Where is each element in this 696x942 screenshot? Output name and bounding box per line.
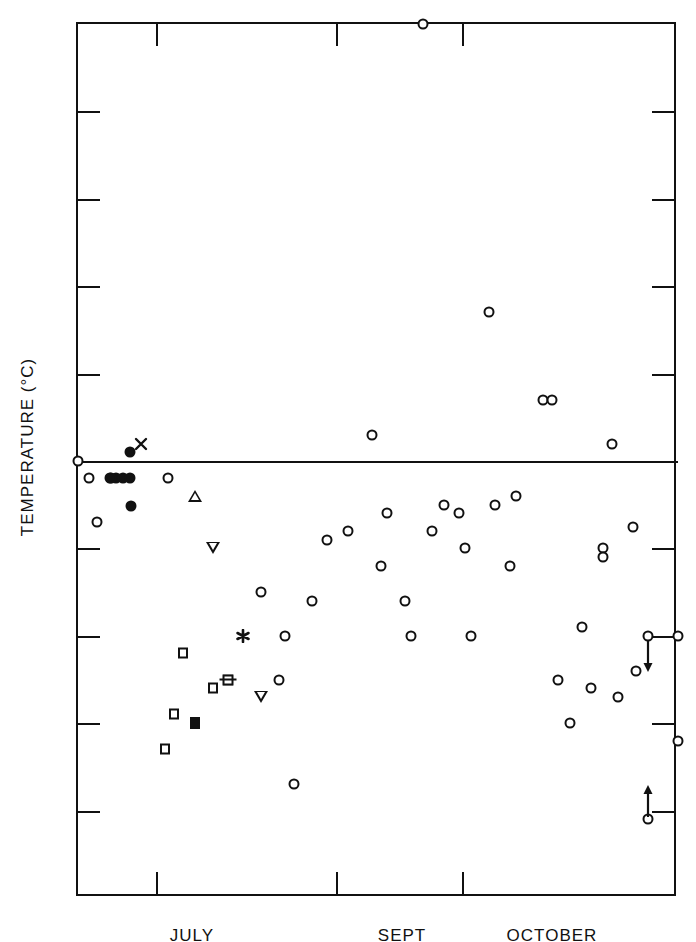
y-tick--2 xyxy=(78,636,100,638)
y-tick-right-3 xyxy=(652,199,674,201)
data-point-triangle-up xyxy=(188,490,202,502)
data-point-open-circle xyxy=(427,525,438,536)
figure-container: TEMPERATURE (°C) 543210−1−2−3−4−5 JULYSE… xyxy=(0,0,696,942)
data-point-open-circle xyxy=(490,499,501,510)
data-point-open-circle xyxy=(256,587,267,598)
data-point-open-circle xyxy=(400,595,411,606)
y-tick-2 xyxy=(78,286,100,288)
data-point-crossed-square xyxy=(223,674,234,685)
data-point-open-circle xyxy=(673,630,684,641)
data-point-filled-circle xyxy=(125,501,136,512)
x-tick-bottom-1 xyxy=(336,872,338,894)
y-tick-3 xyxy=(78,199,100,201)
data-point-open-circle xyxy=(343,525,354,536)
x-tick-top-2 xyxy=(462,24,464,46)
y-tick-right--2 xyxy=(652,636,674,638)
data-point-open-circle xyxy=(280,630,291,641)
data-point-open-circle xyxy=(307,595,318,606)
data-point-open-circle xyxy=(547,394,558,405)
x-tick-top-1 xyxy=(336,24,338,46)
data-point-open-circle xyxy=(466,630,477,641)
data-point-open-square xyxy=(160,744,170,755)
plot-area: 543210−1−2−3−4−5 JULYSEPTOCTOBER xyxy=(76,22,676,896)
data-point-open-circle xyxy=(92,517,103,528)
data-point-open-circle xyxy=(598,552,609,563)
x-tick-bottom-2 xyxy=(462,872,464,894)
data-point-open-circle xyxy=(628,521,639,532)
data-point-filled-square xyxy=(190,717,200,729)
x-tick-bottom-0 xyxy=(156,872,158,894)
data-point-filled-circle xyxy=(106,473,117,484)
data-point-open-square xyxy=(169,709,179,720)
data-point-filled-circle xyxy=(125,473,136,484)
data-point-open-circle xyxy=(565,718,576,729)
data-point-open-circle xyxy=(322,534,333,545)
y-tick--1 xyxy=(78,548,100,550)
data-point-open-circle xyxy=(406,630,417,641)
y-tick--4 xyxy=(78,811,100,813)
data-point-open-circle xyxy=(631,665,642,676)
data-point-open-circle xyxy=(367,429,378,440)
data-point-open-circle xyxy=(83,473,94,484)
data-point-open-circle xyxy=(613,691,624,702)
y-tick-4 xyxy=(78,111,100,113)
y-tick-right--3 xyxy=(652,723,674,725)
arrow-down-annotation xyxy=(642,640,654,676)
y-tick-right--4 xyxy=(652,811,674,813)
data-point-open-circle xyxy=(553,674,564,685)
data-point-open-circle xyxy=(376,560,387,571)
x-tick-top-0 xyxy=(156,24,158,46)
data-point-triangle-down xyxy=(206,542,220,554)
data-point-open-circle xyxy=(607,438,618,449)
zero-line xyxy=(78,461,678,463)
y-tick-right--1 xyxy=(652,548,674,550)
y-tick-right-4 xyxy=(652,111,674,113)
y-tick-1 xyxy=(78,374,100,376)
data-point-open-circle xyxy=(586,683,597,694)
data-point-open-circle xyxy=(505,560,516,571)
data-point-open-circle xyxy=(274,674,285,685)
data-point-open-circle xyxy=(484,307,495,318)
y-tick-right-2 xyxy=(652,286,674,288)
data-point-open-circle xyxy=(73,456,84,467)
x-tick-label-july: JULY xyxy=(170,926,214,942)
x-tick-label-sept: SEPT xyxy=(378,926,426,942)
arrow-up-annotation xyxy=(642,785,654,821)
data-point-open-square xyxy=(178,648,188,659)
data-point-x xyxy=(134,437,148,451)
y-tick-right-1 xyxy=(652,374,674,376)
x-tick-label-october: OCTOBER xyxy=(507,926,598,942)
data-point-open-circle xyxy=(511,490,522,501)
data-point-open-circle xyxy=(460,543,471,554)
y-tick--3 xyxy=(78,723,100,725)
data-point-open-square xyxy=(208,683,218,694)
data-point-open-circle xyxy=(289,779,300,790)
data-point-asterisk xyxy=(236,629,250,643)
data-point-open-circle xyxy=(673,735,684,746)
data-point-open-circle xyxy=(439,499,450,510)
data-point-open-circle xyxy=(577,622,588,633)
data-point-open-circle xyxy=(382,508,393,519)
data-point-open-circle xyxy=(163,473,174,484)
data-point-triangle-down xyxy=(254,691,268,703)
data-point-open-circle xyxy=(454,508,465,519)
data-point-open-circle xyxy=(418,19,429,30)
y-axis-title: TEMPERATURE (°C) xyxy=(18,247,38,647)
